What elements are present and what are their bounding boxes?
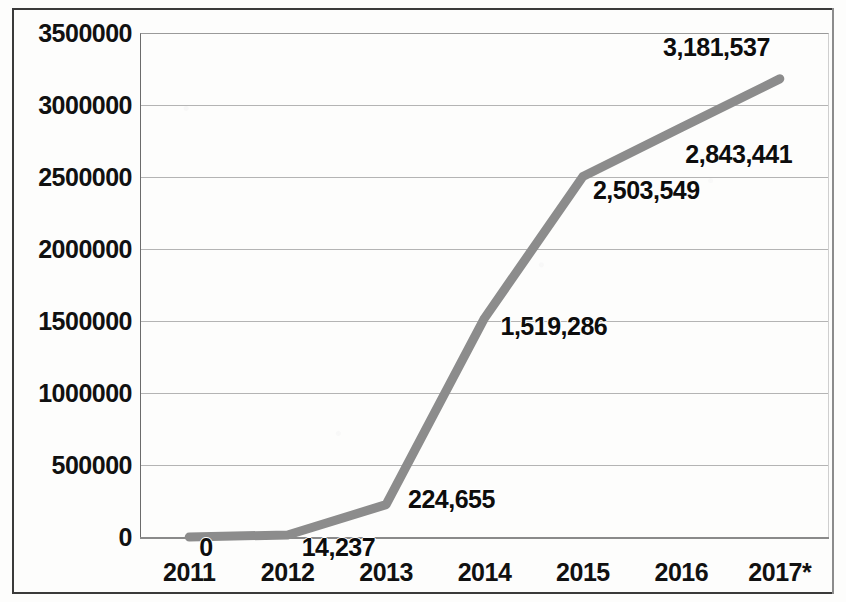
x-axis-tick-label: 2017*: [748, 558, 811, 587]
y-axis-tick-label: 0: [0, 523, 132, 552]
chart-container: 0500000100000015000002000000250000030000…: [0, 0, 846, 602]
y-axis-tick-label: 500000: [0, 451, 132, 480]
gridline: [140, 537, 829, 539]
y-axis-tick-label: 2500000: [0, 163, 132, 192]
x-axis-tick-label: 2012: [261, 558, 315, 587]
plot-area: [140, 33, 829, 537]
x-axis-tick-label: 2015: [556, 558, 610, 587]
data-point-label: 3,181,537: [663, 33, 770, 62]
y-axis-tick-label: 1000000: [0, 379, 132, 408]
data-point-label: 224,655: [408, 485, 495, 514]
x-axis-tick-label: 2014: [458, 558, 512, 587]
y-axis-tick-label: 1500000: [0, 307, 132, 336]
y-axis-tick-label: 3000000: [0, 91, 132, 120]
x-axis-tick-label: 2011: [163, 558, 215, 587]
x-axis-tick-label: 2013: [359, 558, 413, 587]
data-point-label: 14,237: [302, 533, 375, 562]
y-axis-tick-label: 3500000: [0, 19, 132, 48]
data-point-label: 2,503,549: [593, 176, 700, 205]
data-point-label: 2,843,441: [685, 140, 792, 169]
data-point-label: 0: [199, 533, 212, 562]
document-frame-right-edge: [832, 8, 834, 594]
y-axis-tick-labels: 0500000100000015000002000000250000030000…: [0, 0, 132, 602]
data-point-label: 1,519,286: [501, 312, 608, 341]
x-axis-tick-label: 2016: [655, 558, 709, 587]
y-axis-tick-label: 2000000: [0, 235, 132, 264]
